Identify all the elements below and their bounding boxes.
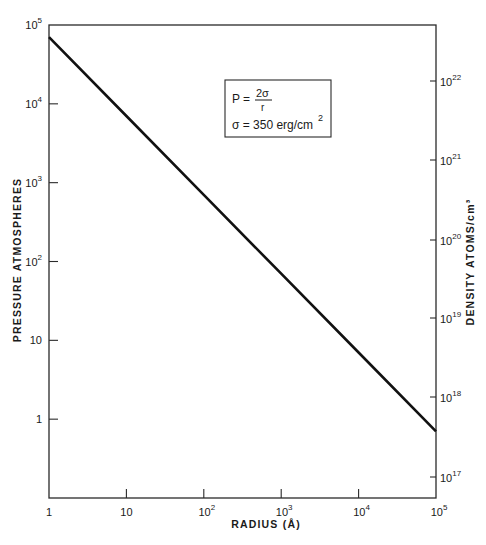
tick-label: 1021 <box>440 152 462 167</box>
formula-lhs: P = <box>232 92 250 106</box>
tick-label: 10 <box>120 506 132 518</box>
tick-label: 1018 <box>440 389 462 404</box>
y-axis-right-title: DENSITY ATOMS/cm³ <box>464 199 476 326</box>
tick-label: 1022 <box>440 73 462 88</box>
sigma-line: σ = 350 erg/cm <box>232 118 313 132</box>
tick-label: 10 <box>30 334 42 346</box>
tick-label: 103 <box>276 503 293 518</box>
tick-label: 1019 <box>440 310 462 325</box>
y-axis-left: 110102103104105 <box>25 16 58 425</box>
sigma-exponent: 2 <box>318 113 323 123</box>
y-axis-right: 101710181019102010211022 <box>430 73 462 484</box>
tick-label: 103 <box>25 174 42 189</box>
tick-label: 104 <box>353 503 370 518</box>
x-axis-title: RADIUS (Å) <box>231 518 301 530</box>
tick-label: 104 <box>25 95 42 110</box>
formula-numerator: 2σ <box>256 87 269 99</box>
pressure-radius-chart: 110102103104105 110102103104105 10171018… <box>0 0 486 545</box>
y-axis-left-title: PRESSURE ATMOSPHERES <box>11 178 23 343</box>
tick-label: 1 <box>36 413 42 425</box>
tick-label: 1 <box>46 506 52 518</box>
tick-label: 105 <box>431 503 448 518</box>
legend-box: P = 2σ r σ = 350 erg/cm 2 <box>225 80 331 137</box>
tick-label: 1017 <box>440 469 462 484</box>
tick-label: 105 <box>25 16 42 31</box>
tick-label: 1020 <box>440 232 462 247</box>
x-axis: 110102103104105 <box>46 489 448 518</box>
tick-label: 102 <box>198 503 215 518</box>
tick-label: 102 <box>25 253 42 268</box>
